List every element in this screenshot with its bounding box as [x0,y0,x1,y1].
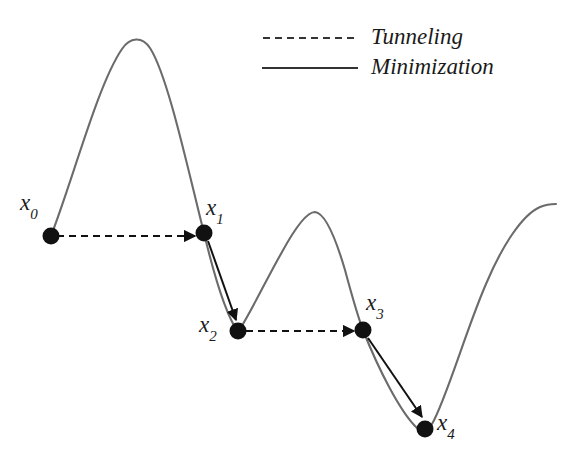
point-label-x2-base: x [199,312,209,337]
minimization-arrow-x3-x4 [368,338,422,417]
point-label-x3: x3 [366,291,384,319]
tunneling-minimization-figure: Tunneling Minimization x0 x1 x2 x3 x4 [0,0,569,467]
minimization-arrow-x1-x2 [208,241,236,320]
point-label-x3-base: x [366,290,376,315]
point-label-x1: x1 [206,196,224,224]
point-label-x0: x0 [20,191,38,219]
point-label-x0-base: x [20,190,30,215]
point-marker-x2[interactable] [230,323,247,340]
point-label-x4-sub: 4 [447,426,455,442]
legend-label-tunneling: Tunneling [371,25,463,48]
point-marker-x0[interactable] [43,228,60,245]
point-label-x0-sub: 0 [30,206,38,222]
legend-label-minimization: Minimization [371,55,494,78]
point-marker-x3[interactable] [355,322,372,339]
point-label-x4-base: x [437,410,447,435]
point-label-x4: x4 [437,411,455,439]
point-label-x1-sub: 1 [216,211,224,227]
objective-function-curve [51,39,556,430]
point-label-x2-sub: 2 [209,328,217,344]
point-marker-x4[interactable] [417,421,434,438]
point-label-x3-sub: 3 [376,306,384,322]
point-label-x1-base: x [206,195,216,220]
point-marker-x1[interactable] [196,225,213,242]
point-label-x2: x2 [199,313,217,341]
